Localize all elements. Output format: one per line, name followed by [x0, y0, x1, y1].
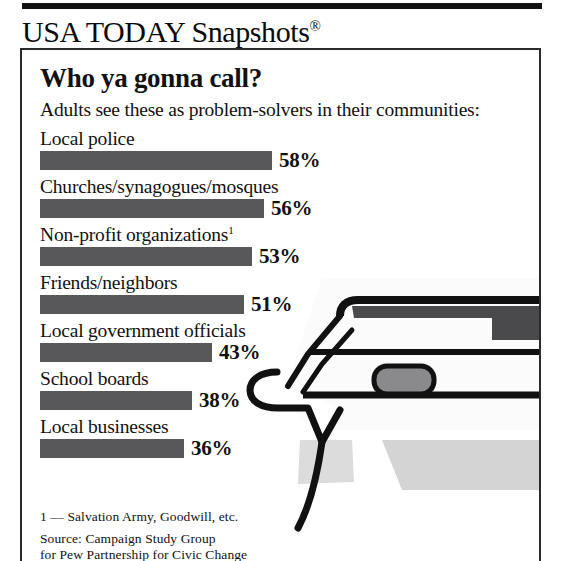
- bar-row-label: Non-profit organizations1: [40, 224, 234, 246]
- bar-fill: [40, 295, 244, 314]
- bar-value-label: 43%: [212, 343, 260, 362]
- bar-row: School boards 38%: [40, 368, 510, 416]
- registered-trademark-icon: ®: [309, 18, 320, 34]
- bar-row-label: Local businesses: [40, 416, 168, 438]
- bar-row: Local businesses 36%: [40, 416, 510, 464]
- bar-row-track: 58%: [40, 151, 320, 170]
- masthead-brand: USA TODAY Snapshots: [22, 15, 309, 48]
- usa-today-snapshot: USA TODAY Snapshots®: [0, 0, 565, 561]
- bar-row: Churches/synagogues/mosques 56%: [40, 176, 510, 224]
- bar-fill: [40, 199, 264, 218]
- chart-content: Who ya gonna call? Adults see these as p…: [22, 50, 541, 561]
- chart-title: Who ya gonna call?: [40, 63, 262, 93]
- bar-row-label: Local police: [40, 128, 135, 150]
- footnote-marker: 1: [228, 224, 233, 236]
- bar-value-label: 58%: [272, 151, 320, 170]
- bar-row-track: 56%: [40, 199, 312, 218]
- bar-fill: [40, 343, 212, 362]
- bar-row: Local police 58%: [40, 128, 510, 176]
- chart-panel: Who ya gonna call? Adults see these as p…: [20, 48, 541, 561]
- chart-source-line-1: Source: Campaign Study Group: [40, 531, 247, 547]
- bar-row-label: School boards: [40, 368, 148, 390]
- bar-fill: [40, 151, 272, 170]
- bar-row-track: 53%: [40, 247, 300, 266]
- bar-row-track: 51%: [40, 295, 292, 314]
- bar-row-track: 36%: [40, 439, 232, 458]
- bar-value-label: 53%: [252, 247, 300, 266]
- bar-fill: [40, 439, 184, 458]
- bar-row: Non-profit organizations1 53%: [40, 224, 510, 272]
- bar-row-track: 43%: [40, 343, 260, 362]
- bar-row-label: Friends/neighbors: [40, 272, 177, 294]
- bar-value-label: 36%: [184, 439, 232, 458]
- bar-row-label: Churches/synagogues/mosques: [40, 176, 278, 198]
- bar-row-label: Local government officials: [40, 320, 246, 342]
- bar-row: Friends/neighbors 51%: [40, 272, 510, 320]
- bar-row-track: 38%: [40, 391, 240, 410]
- chart-subtitle: Adults see these as problem-solvers in t…: [40, 98, 480, 121]
- bar-value-label: 51%: [244, 295, 292, 314]
- bar-fill: [40, 247, 252, 266]
- bar-row: Local government officials 43%: [40, 320, 510, 368]
- chart-footnote: 1 — Salvation Army, Goodwill, etc.: [40, 509, 238, 525]
- chart-source-line-2: for Pew Partnership for Civic Change: [40, 547, 247, 561]
- bar-value-label: 56%: [264, 199, 312, 218]
- bar-fill: [40, 391, 192, 410]
- bar-chart-rows: Local police 58% Churches/synagogues/mos…: [40, 128, 510, 464]
- masthead-title: USA TODAY Snapshots®: [22, 9, 542, 43]
- chart-source: Source: Campaign Study Group for Pew Par…: [40, 531, 247, 561]
- bar-value-label: 38%: [192, 391, 240, 410]
